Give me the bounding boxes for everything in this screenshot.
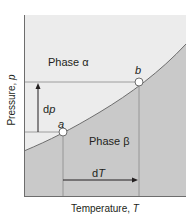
dp-label: dp (43, 103, 55, 115)
point-a-label: a (58, 118, 64, 130)
y-axis-label: Pressure, p (6, 74, 17, 126)
point-b-marker (135, 78, 143, 86)
x-axis-label: Temperature, T (71, 203, 140, 214)
phase-beta-label: Phase β (89, 135, 130, 147)
phase-alpha-label: Phase α (48, 56, 89, 68)
phase-diagram: Phase α Phase β a b dp dT Temperature, T… (0, 0, 194, 217)
point-b-label: b (135, 64, 141, 76)
dT-label: dT (92, 167, 106, 179)
